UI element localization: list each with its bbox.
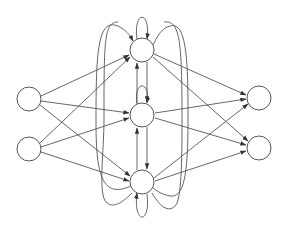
input-node-1 <box>17 87 41 111</box>
hidden-node-3 <box>130 170 154 194</box>
hidden-layer <box>130 38 154 194</box>
input-layer <box>17 87 41 161</box>
output-layer <box>247 86 271 160</box>
output-node-1 <box>247 86 271 110</box>
neural-network-diagram <box>0 0 284 226</box>
input-node-2 <box>17 137 41 161</box>
hidden-node-2 <box>130 103 154 127</box>
input-to-hidden-edges <box>40 55 130 181</box>
hidden-to-output-edges <box>153 54 248 181</box>
hidden-node-1 <box>130 38 154 62</box>
output-node-2 <box>247 136 271 160</box>
